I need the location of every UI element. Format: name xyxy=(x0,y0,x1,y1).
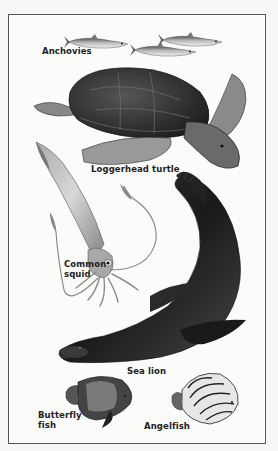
label-butterfly-fish: Butterfly fish xyxy=(38,410,82,430)
angelfish-drawing xyxy=(172,373,238,424)
label-common-squid: Common squid xyxy=(64,259,106,279)
label-anchovies: Anchovies xyxy=(42,46,92,56)
label-sea-lion: Sea lion xyxy=(127,366,166,376)
marine-animals-illustration xyxy=(0,0,278,451)
label-angelfish: Angelfish xyxy=(144,421,190,431)
label-loggerhead-turtle: Loggerhead turtle xyxy=(91,164,180,174)
loggerhead-turtle-drawing xyxy=(34,68,246,168)
